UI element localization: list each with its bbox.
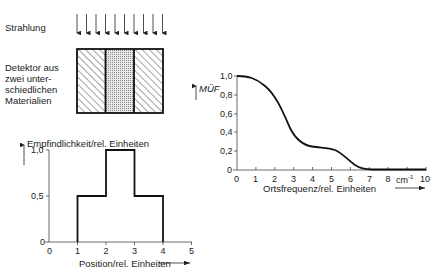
- muef-y-label: MÜF: [199, 83, 220, 94]
- y-tick: 0: [227, 165, 232, 175]
- x-tick: 1: [253, 174, 258, 184]
- x-tick: 8: [386, 174, 391, 184]
- y-tick: 1,0: [31, 145, 44, 155]
- x-tick: 5: [189, 246, 194, 256]
- x-tick: 4: [161, 246, 166, 256]
- x-unit: cm-1: [396, 172, 413, 185]
- y-tick: 0,5: [31, 191, 44, 201]
- y-tick: 1,0: [220, 71, 233, 81]
- y-tick: 0,6: [220, 109, 233, 119]
- muef-x-label: Ortsfrequenz/rel. Einheiten: [263, 183, 376, 194]
- y-tick: 0,4: [220, 127, 233, 137]
- sensitivity-y-label: Empfindlichkeit/rel. Einheiten: [27, 138, 149, 149]
- x-tick: 10: [420, 174, 430, 184]
- radiation-arrows: [77, 14, 163, 33]
- x-tick: 2: [104, 246, 109, 256]
- y-tick: 0,8: [220, 90, 233, 100]
- sensitivity-curve: [78, 150, 164, 242]
- sensitivity-x-label: Position/rel. Einheiten: [79, 258, 171, 269]
- y-tick: 0,2: [220, 146, 233, 156]
- x-tick: 0: [47, 246, 52, 256]
- muef-curve: [237, 76, 426, 170]
- x-tick: 1: [75, 246, 80, 256]
- x-tick: 3: [132, 246, 137, 256]
- y-tick: 0: [40, 237, 45, 247]
- detector-block: [77, 49, 163, 113]
- x-tick: 0: [234, 174, 239, 184]
